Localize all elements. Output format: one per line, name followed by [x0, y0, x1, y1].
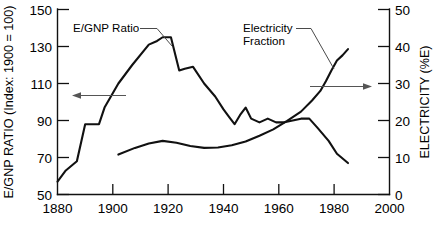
x-tick-label-2000: 2000	[374, 201, 404, 216]
annotation-electricity-label-line2: Fraction	[243, 34, 285, 47]
right-tick-label-50: 50	[395, 3, 410, 18]
right-tick-label-40: 40	[395, 40, 410, 55]
right-axis-pointer-arrow	[310, 83, 372, 89]
right-tick-label-10: 10	[395, 151, 410, 166]
left-axis: 150 130 110 90 70 50 E/GNP RATIO (Index:…	[2, 3, 69, 203]
x-tick-label-1900: 1900	[98, 201, 128, 216]
annotation-egnp: E/GNP Ratio	[73, 21, 172, 46]
left-axis-pointer-arrow	[72, 92, 126, 98]
left-axis-title: E/GNP RATIO (Index: 1900 = 100)	[2, 5, 16, 198]
left-tick-label-110: 110	[30, 77, 52, 92]
left-arrow-head	[72, 92, 81, 98]
left-tick-label-130: 130	[29, 40, 52, 55]
annotation-electricity-label-line1: Electricity	[243, 21, 293, 34]
chart-canvas: 150 130 110 90 70 50 E/GNP RATIO (Index:…	[0, 0, 440, 231]
annotation-egnp-label: E/GNP Ratio	[73, 21, 139, 34]
x-tick-label-1960: 1960	[264, 201, 294, 216]
left-tick-label-90: 90	[37, 114, 52, 129]
right-arrow-head	[363, 83, 372, 89]
x-axis: 1880 1900 1920 1940 1960 1980 2000	[42, 184, 404, 216]
right-tick-label-30: 30	[395, 77, 410, 92]
x-tick-label-1980: 1980	[319, 201, 349, 216]
x-tick-label-1940: 1940	[208, 201, 238, 216]
left-tick-label-150: 150	[29, 3, 52, 18]
x-tick-label-1880: 1880	[42, 201, 72, 216]
series-line-electricity-fraction	[118, 49, 348, 154]
right-axis-title: ELECTRICITY (%E)	[418, 45, 432, 158]
left-tick-label-70: 70	[37, 151, 52, 166]
x-tick-label-1920: 1920	[153, 201, 183, 216]
annotation-electricity: Electricity Fraction	[243, 21, 334, 69]
right-tick-label-20: 20	[395, 114, 410, 129]
right-axis: 50 40 30 20 10 0 ELECTRICITY (%E)	[378, 3, 432, 203]
chart-figure: 150 130 110 90 70 50 E/GNP RATIO (Index:…	[0, 0, 440, 231]
annotation-electricity-leader	[296, 29, 334, 70]
